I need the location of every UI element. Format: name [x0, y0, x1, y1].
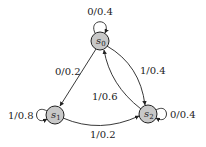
edge-s1-s2 — [63, 116, 139, 126]
state-diagram: 0/0.4 0/0.2 1/0.4 1/0.6 1/0.8 1/0.2 0/0.… — [0, 0, 206, 147]
node-s1: s1 — [46, 106, 64, 124]
edge-label-s0-s0: 0/0.4 — [87, 6, 113, 17]
edge-label-s0-s1: 0/0.2 — [55, 66, 81, 77]
edge-s0-s1 — [60, 49, 96, 106]
edge-s0-s0 — [94, 22, 107, 33]
edge-s1-s1 — [37, 109, 48, 120]
node-s0: s0 — [91, 32, 109, 50]
edge-s2-s2 — [156, 108, 167, 119]
edge-label-s2-s2: 0/0.4 — [170, 109, 196, 120]
node-s2: s2 — [139, 105, 157, 123]
edge-label-s1-s2: 1/0.2 — [90, 129, 116, 140]
edge-label-s2-s0: 1/0.6 — [92, 91, 118, 102]
edge-label-s1-s1: 1/0.8 — [8, 110, 34, 121]
edge-label-s0-s2: 1/0.4 — [140, 65, 166, 76]
